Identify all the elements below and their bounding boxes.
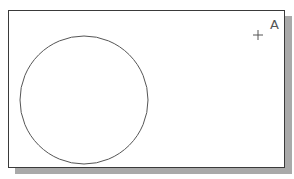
point-a-label: A (270, 17, 279, 32)
drawing-layer (0, 0, 294, 179)
circle-shape[interactable] (20, 36, 148, 164)
crosshair-plus-icon (253, 30, 263, 40)
